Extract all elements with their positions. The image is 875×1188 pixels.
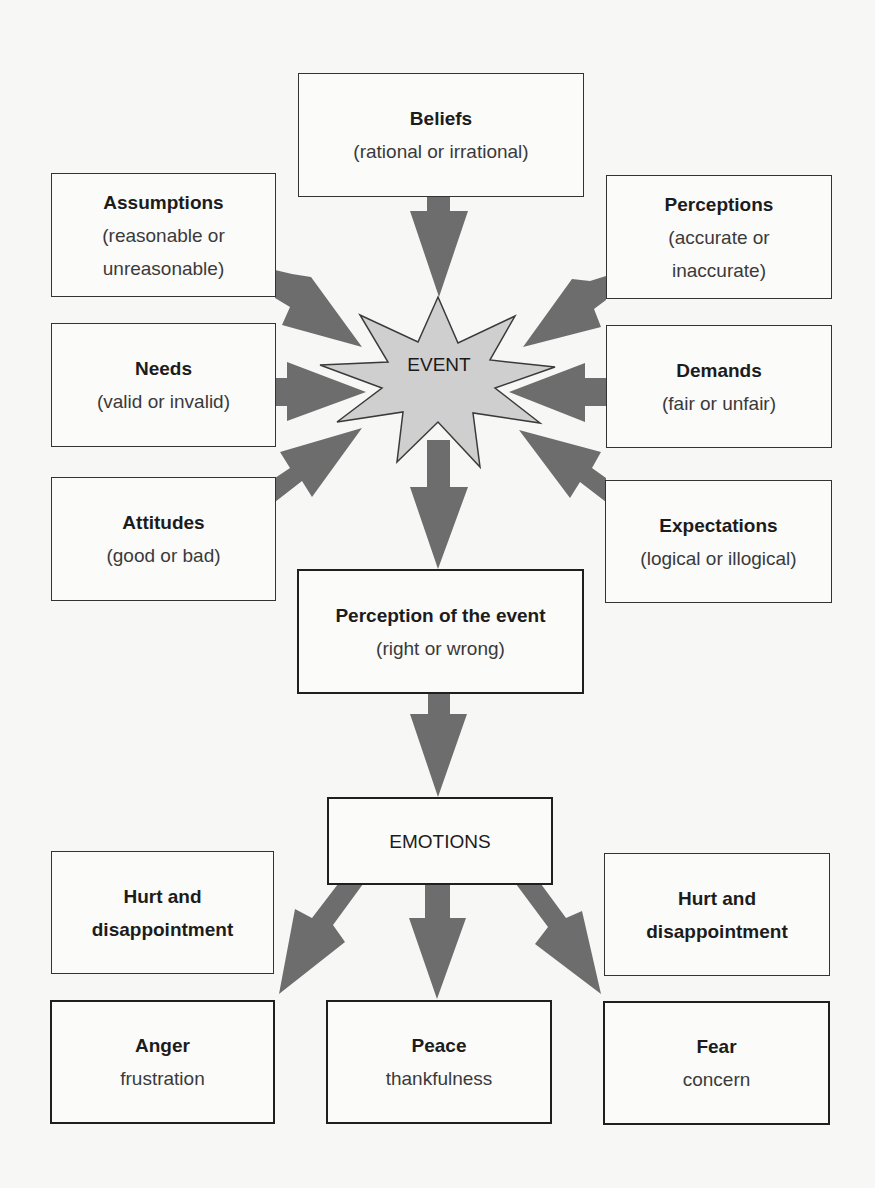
perceptions-sub-line2: inaccurate)	[672, 254, 766, 287]
beliefs-sub: (rational or irrational)	[353, 135, 528, 168]
anger-title: Anger	[135, 1029, 190, 1062]
perception-of-event-title: Perception of the event	[335, 599, 545, 632]
hurt-left-box: Hurt and disappointment	[51, 851, 274, 974]
arrow-assumptions-to-event	[275, 270, 362, 347]
assumptions-title: Assumptions	[103, 186, 223, 219]
hurt-left-line2: disappointment	[92, 913, 233, 946]
anger-sub: frustration	[120, 1062, 204, 1095]
assumptions-sub-line2: unreasonable)	[103, 252, 224, 285]
hurt-left-line1: Hurt and	[123, 880, 201, 913]
perceptions-sub-line1: (accurate or	[668, 221, 769, 254]
arrow-emotions-to-anger	[279, 884, 363, 994]
attitudes-box: Attitudes (good or bad)	[51, 477, 276, 601]
expectations-box: Expectations (logical or illogical)	[605, 480, 832, 603]
attitudes-title: Attitudes	[122, 506, 204, 539]
needs-title: Needs	[135, 352, 192, 385]
arrow-emotions-to-peace	[409, 884, 466, 999]
peace-title: Peace	[412, 1029, 467, 1062]
anger-box: Anger frustration	[50, 1000, 275, 1124]
demands-sub: (fair or unfair)	[662, 387, 776, 420]
fear-title: Fear	[696, 1030, 736, 1063]
arrow-beliefs-to-event	[410, 196, 468, 297]
emotions-label: EMOTIONS	[389, 825, 490, 858]
assumptions-sub-line1: (reasonable or	[102, 219, 225, 252]
assumptions-box: Assumptions (reasonable or unreasonable)	[51, 173, 276, 297]
perceptions-box: Perceptions (accurate or inaccurate)	[606, 175, 832, 299]
emotion-flow-diagram: EVENT Beliefs (rational or irrational) A…	[0, 0, 875, 1188]
needs-sub: (valid or invalid)	[97, 385, 230, 418]
hurt-right-box: Hurt and disappointment	[604, 853, 830, 976]
demands-title: Demands	[676, 354, 762, 387]
peace-box: Peace thankfulness	[326, 1000, 552, 1124]
fear-box: Fear concern	[603, 1001, 830, 1125]
expectations-title: Expectations	[659, 509, 777, 542]
beliefs-box: Beliefs (rational or irrational)	[298, 73, 584, 197]
perceptions-title: Perceptions	[665, 188, 774, 221]
hurt-right-line2: disappointment	[646, 915, 787, 948]
attitudes-sub: (good or bad)	[106, 539, 220, 572]
emotions-box: EMOTIONS	[327, 797, 553, 885]
beliefs-title: Beliefs	[410, 102, 472, 135]
event-label: EVENT	[379, 354, 499, 376]
peace-sub: thankfulness	[386, 1062, 493, 1095]
arrow-emotions-to-fear	[516, 884, 601, 994]
arrow-attitudes-to-event	[275, 428, 362, 502]
arrow-perceptions-to-event	[523, 276, 606, 347]
expectations-sub: (logical or illogical)	[640, 542, 796, 575]
arrow-event-to-perception	[410, 440, 468, 569]
perception-of-event-box: Perception of the event (right or wrong)	[297, 569, 584, 694]
arrow-expectations-to-event	[519, 430, 606, 502]
needs-box: Needs (valid or invalid)	[51, 323, 276, 447]
perception-of-event-sub: (right or wrong)	[376, 632, 505, 665]
arrow-perception-to-emotions	[410, 693, 467, 797]
fear-sub: concern	[683, 1063, 751, 1096]
hurt-right-line1: Hurt and	[678, 882, 756, 915]
demands-box: Demands (fair or unfair)	[606, 325, 832, 448]
